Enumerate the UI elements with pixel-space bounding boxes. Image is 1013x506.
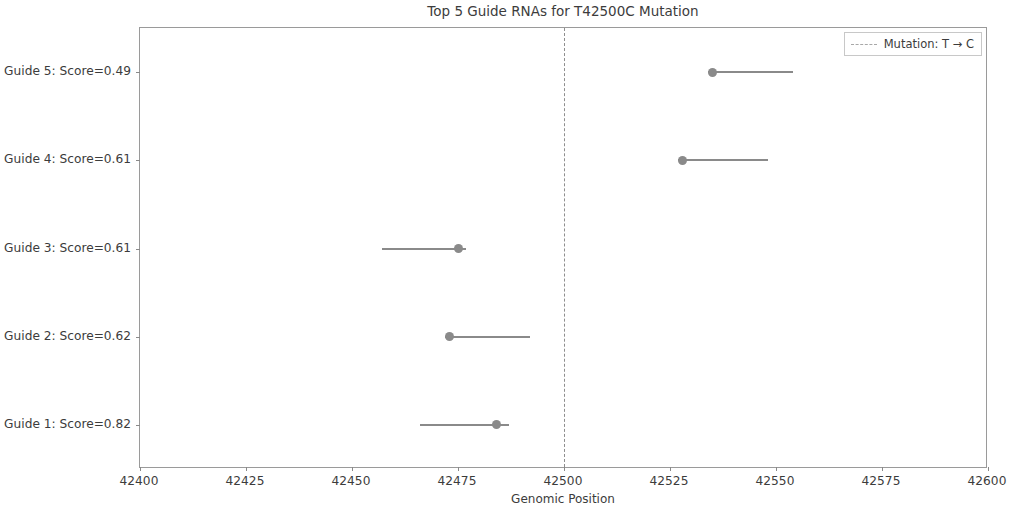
guide-cut-site-marker (708, 68, 717, 77)
y-axis-tick (136, 425, 140, 426)
x-axis-tick-label: 42525 (650, 474, 689, 488)
chart-figure: Top 5 Guide RNAs for T42500C Mutation Mu… (0, 0, 1013, 506)
y-axis-tick (136, 337, 140, 338)
y-axis-tick-label: Guide 1: Score=0.82 (0, 417, 131, 431)
guide-cut-site-marker (492, 420, 501, 429)
chart-legend: Mutation: T → C (844, 32, 982, 56)
y-axis-tick-label: Guide 2: Score=0.62 (0, 329, 131, 343)
x-axis-tick (458, 467, 459, 471)
y-axis-tick (136, 160, 140, 161)
guide-cut-site-marker (454, 244, 463, 253)
x-axis-tick (246, 467, 247, 471)
x-axis-tick-label: 42475 (438, 474, 477, 488)
x-axis-tick (776, 467, 777, 471)
guide-cut-site-marker (445, 332, 454, 341)
x-axis-tick (882, 467, 883, 471)
x-axis-label: Genomic Position (139, 492, 987, 506)
x-axis-tick (988, 467, 989, 471)
chart-title: Top 5 Guide RNAs for T42500C Mutation (139, 3, 987, 19)
plot-area: Mutation: T → C (139, 27, 987, 468)
x-axis-tick-label: 42425 (226, 474, 265, 488)
plot-inner (140, 28, 986, 467)
y-axis-tick-label: Guide 4: Score=0.61 (0, 152, 131, 166)
y-axis-tick (136, 249, 140, 250)
legend-label-mutation: Mutation: T → C (884, 37, 974, 51)
guide-cut-site-marker (678, 156, 687, 165)
y-axis-tick-label: Guide 5: Score=0.49 (0, 64, 131, 78)
x-axis-tick-label: 42550 (756, 474, 795, 488)
y-axis-tick-label: Guide 3: Score=0.61 (0, 241, 131, 255)
x-axis-tick-label: 42450 (332, 474, 371, 488)
y-axis-tick (136, 72, 140, 73)
x-axis-tick-label: 42600 (968, 474, 1007, 488)
x-axis-tick (670, 467, 671, 471)
guide-span-line (708, 71, 793, 73)
x-axis-tick (352, 467, 353, 471)
x-axis-tick (564, 467, 565, 471)
x-axis-tick-label: 42400 (120, 474, 159, 488)
x-axis-tick-label: 42575 (862, 474, 901, 488)
mutation-position-line (564, 28, 565, 467)
guide-span-line (445, 336, 530, 338)
dashed-line-icon (851, 44, 877, 45)
x-axis-tick-label: 42500 (544, 474, 583, 488)
x-axis-tick (140, 467, 141, 471)
guide-span-line (678, 159, 767, 161)
